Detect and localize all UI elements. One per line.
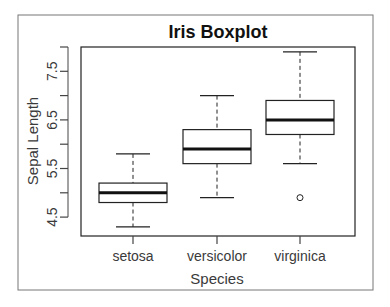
y-axis: 4.55.56.57.5 (44, 47, 68, 227)
outlier-point (297, 195, 303, 201)
boxes (99, 52, 334, 227)
y-tick-label: 5.5 (44, 159, 60, 179)
y-axis-label: Sepal Length (24, 97, 41, 185)
x-axis: setosaversicolorvirginica (112, 236, 326, 264)
box-setosa (99, 154, 167, 227)
y-tick-label: 6.5 (44, 110, 60, 130)
y-tick-label: 4.5 (44, 207, 60, 227)
box-virginica (266, 52, 334, 201)
x-tick-label-versicolor: versicolor (187, 248, 247, 264)
box-versicolor (183, 96, 251, 198)
y-tick-label: 7.5 (44, 61, 60, 81)
x-tick-label-setosa: setosa (112, 248, 153, 264)
x-tick-label-virginica: virginica (274, 248, 326, 264)
boxplot-chart: Iris Boxplot 4.55.56.57.5 setosaversicol… (0, 0, 390, 307)
chart-title: Iris Boxplot (168, 22, 267, 42)
x-axis-label: Species (190, 270, 243, 287)
